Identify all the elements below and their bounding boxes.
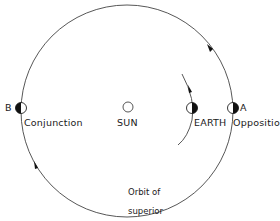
earth-orbit-arrow-icon: [188, 85, 192, 93]
planet-a-letter: A: [240, 103, 247, 113]
conjunction-label: Conjunction: [24, 118, 83, 128]
sun-label: SUN: [117, 118, 138, 128]
orbit-label-line-2: superior: [128, 207, 163, 217]
planet-b-letter: B: [5, 103, 12, 113]
opposition-label: Opposition: [233, 118, 280, 128]
earth-label: EARTH: [194, 118, 226, 128]
planet-a-icon: [228, 103, 239, 114]
sun-icon: [123, 102, 133, 112]
orbit-label-line-1: Orbit of: [128, 188, 163, 198]
earth-icon: [187, 103, 198, 114]
planet-b-icon: [16, 103, 27, 114]
orbit-direction-arrow-icon: [34, 161, 38, 169]
orbit-of-superior-planet-label: Orbit of superior planet: [128, 178, 163, 221]
orbit-diagram: B Conjunction SUN EARTH A Opposition Orb…: [0, 0, 280, 221]
